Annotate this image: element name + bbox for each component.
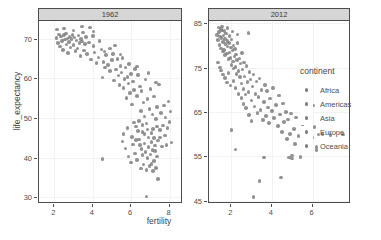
data-point [131, 143, 135, 147]
data-point [81, 31, 85, 35]
x-axis-tick-mark [230, 204, 231, 207]
data-point [242, 87, 246, 91]
data-point [240, 51, 244, 55]
plot-area-1962 [38, 21, 182, 203]
data-point [249, 78, 253, 82]
data-point [161, 124, 165, 128]
data-point [121, 140, 125, 144]
data-point [108, 47, 112, 51]
y-axis-tick-mark [34, 197, 37, 198]
data-point [277, 94, 281, 98]
data-point [243, 75, 247, 79]
x-axis-tick-mark [92, 204, 93, 207]
data-point [155, 105, 159, 109]
data-point [133, 152, 137, 156]
data-point [260, 88, 264, 92]
data-point [138, 85, 142, 89]
data-point [118, 83, 122, 87]
x-axis-tick-label: 4 [269, 208, 273, 217]
data-point [258, 77, 262, 81]
data-point [168, 120, 172, 124]
legend-item-africa[interactable]: Africa [300, 83, 351, 97]
data-point [130, 103, 134, 107]
data-point [261, 118, 265, 122]
data-point [156, 139, 160, 143]
data-point [251, 85, 255, 89]
data-point [93, 51, 97, 55]
data-point [149, 87, 153, 91]
data-point [140, 89, 144, 93]
x-axis-tick-mark [271, 204, 272, 207]
x-axis-tick-label: 4 [90, 208, 94, 217]
data-point [140, 147, 144, 151]
y-axis-tick-mark [34, 39, 37, 40]
data-point [145, 122, 149, 126]
data-point [258, 179, 262, 183]
data-point [72, 43, 76, 47]
data-point [138, 143, 142, 147]
data-point [151, 113, 155, 117]
data-point [149, 153, 153, 157]
data-point [79, 54, 83, 58]
gridline-horizontal [209, 156, 349, 157]
data-point [252, 73, 256, 77]
data-point [155, 155, 159, 159]
data-point [278, 113, 282, 117]
data-point [144, 78, 148, 82]
data-point [159, 111, 163, 115]
data-point [158, 128, 162, 132]
data-point [252, 195, 256, 199]
data-point [55, 36, 59, 40]
y-axis-tick-label: 65 [182, 108, 202, 117]
data-point [250, 119, 254, 123]
data-point [122, 132, 126, 136]
data-point [280, 130, 284, 134]
data-point [111, 52, 115, 56]
gridline-horizontal [209, 201, 349, 202]
data-point [139, 167, 143, 171]
data-point [154, 117, 158, 121]
x-axis-tick-label: 2 [228, 208, 232, 217]
data-point [128, 91, 132, 95]
data-point [244, 106, 248, 110]
legend-key-swatch-icon [300, 126, 313, 139]
data-point [227, 71, 231, 75]
y-axis-tick-label: 50 [12, 113, 32, 122]
data-point [148, 107, 152, 111]
y-axis-tick-label: 40 [12, 153, 32, 162]
data-point [265, 89, 269, 93]
data-point [143, 132, 147, 136]
data-point [122, 86, 126, 90]
data-point [223, 76, 227, 80]
data-point [299, 155, 303, 159]
legend-key-swatch-icon [300, 112, 313, 125]
legend-item-americas[interactable]: Americas [300, 97, 351, 111]
data-point [62, 27, 66, 31]
data-point [267, 121, 271, 125]
data-point [120, 71, 124, 75]
data-point [139, 109, 143, 113]
legend-item-label: Europe [320, 128, 344, 137]
data-point [284, 110, 288, 114]
data-point [234, 86, 238, 90]
data-point [146, 97, 150, 101]
data-point [136, 73, 140, 77]
data-point [87, 41, 91, 45]
data-point [55, 28, 59, 32]
data-point [108, 69, 112, 73]
gridline-vertical [131, 21, 132, 202]
data-point [154, 166, 158, 170]
legend-item-oceania[interactable]: Oceania [300, 139, 351, 153]
legend-item-asia[interactable]: Asia [300, 111, 351, 125]
legend-item-europe[interactable]: Europe [300, 125, 351, 139]
data-point [84, 35, 88, 39]
data-point [144, 150, 148, 154]
y-axis-tick-mark [204, 201, 207, 202]
gridline-vertical [93, 21, 94, 202]
data-point [141, 123, 145, 127]
data-point [256, 111, 260, 115]
data-point [152, 159, 156, 163]
y-axis-tick-mark [204, 156, 207, 157]
data-point [157, 83, 161, 87]
data-point [151, 148, 155, 152]
